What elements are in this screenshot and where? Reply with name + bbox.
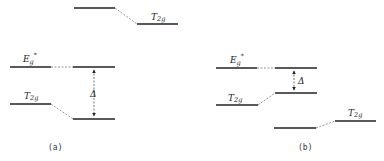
connector-a-t2g (51, 104, 73, 119)
panel-label-b: (b) (298, 143, 312, 152)
label-b-eg: Eg* (229, 52, 244, 67)
panel-label-a: (a) (48, 143, 62, 152)
panel-a: T2g Eg* T2g Δ (a) (10, 8, 178, 152)
energy-level-diagram: T2g Eg* T2g Δ (a) Eg* T2g Δ T2g (0, 0, 384, 161)
connector-a-top (115, 8, 137, 24)
label-b-t2g: T2g (228, 93, 242, 104)
label-a-t2g-top: T2g (151, 12, 165, 23)
delta-label-b: Δ (297, 76, 305, 86)
label-a-t2g: T2g (24, 91, 38, 102)
delta-label-a: Δ (89, 89, 97, 99)
label-a-eg: Eg* (22, 51, 37, 66)
connector-b-bottom (316, 121, 335, 128)
panel-b: Eg* T2g Δ T2g (b) (216, 52, 376, 152)
label-b-t2g-bottom: T2g (348, 108, 362, 119)
connector-b-t2g (258, 93, 275, 105)
